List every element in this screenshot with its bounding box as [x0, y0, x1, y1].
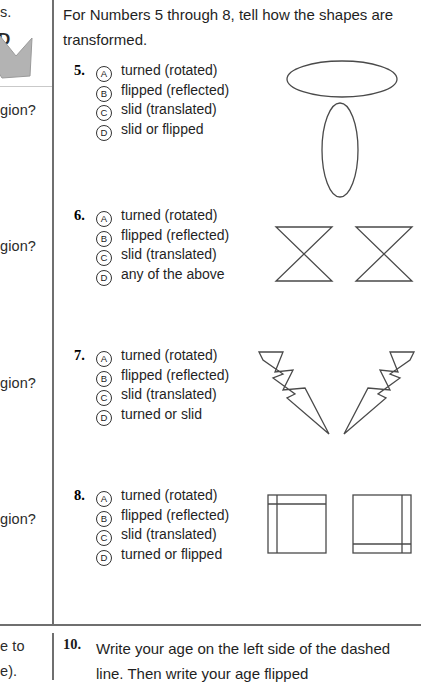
- choice-7-c[interactable]: C slid (translated): [96, 386, 276, 406]
- choice-5-b-label: flipped (reflected): [121, 82, 229, 98]
- choice-5-d[interactable]: D slid or flipped: [96, 121, 276, 141]
- choice-5-c[interactable]: C slid (translated): [96, 101, 276, 121]
- choice-8-b-label: flipped (reflected): [121, 507, 229, 523]
- question-5-choices: A turned (rotated) B flipped (reflected)…: [96, 62, 276, 140]
- column-divider: [52, 0, 54, 625]
- choice-7-d-label: turned or slid: [121, 406, 202, 422]
- choice-5-c-label: slid (translated): [121, 101, 217, 117]
- question-5-figure-ellipses: [268, 52, 420, 197]
- bubble-a[interactable]: A: [96, 491, 112, 507]
- bubble-c[interactable]: C: [96, 390, 112, 406]
- choice-5-a[interactable]: A turned (rotated): [96, 62, 276, 82]
- bubble-c[interactable]: C: [96, 250, 112, 266]
- choice-6-c[interactable]: C slid (translated): [96, 246, 276, 266]
- instructions-text: For Numbers 5 through 8, tell how the sh…: [63, 2, 415, 52]
- choice-6-b[interactable]: B flipped (reflected): [96, 227, 276, 247]
- left-partial-column: s. D gion? gion? gion? gion?: [0, 0, 52, 625]
- left-fragment-5: gion?: [0, 511, 36, 527]
- question-10-text: Write your age on the left side of the d…: [96, 636, 406, 686]
- choice-5-d-label: slid or flipped: [121, 121, 204, 137]
- question-8-choices: A turned (rotated) B flipped (reflected)…: [96, 487, 276, 565]
- choice-7-d[interactable]: D turned or slid: [96, 406, 276, 426]
- question-10-number: 10.: [63, 636, 81, 653]
- question-7-choices: A turned (rotated) B flipped (reflected)…: [96, 347, 276, 425]
- bubble-a[interactable]: A: [96, 351, 112, 367]
- choice-8-d[interactable]: D turned or flipped: [96, 546, 276, 566]
- choice-6-b-label: flipped (reflected): [121, 227, 229, 243]
- choice-6-d-label: any of the above: [121, 266, 225, 282]
- left-fragment-7: e).: [0, 663, 17, 679]
- choice-6-c-label: slid (translated): [121, 246, 217, 262]
- question-7-number: 7.: [74, 347, 85, 364]
- choice-8-c-label: slid (translated): [121, 526, 217, 542]
- main-column: For Numbers 5 through 8, tell how the sh…: [63, 0, 421, 625]
- left-fragment-4: gion?: [0, 375, 36, 391]
- bubble-a[interactable]: A: [96, 66, 112, 82]
- left-cell-divider: [0, 86, 52, 87]
- bubble-b[interactable]: B: [96, 371, 112, 387]
- left-fragment-3: gion?: [0, 238, 36, 254]
- question-6-choices: A turned (rotated) B flipped (reflected)…: [96, 207, 276, 285]
- bubble-c[interactable]: C: [96, 530, 112, 546]
- choice-7-a-label: turned (rotated): [121, 347, 218, 363]
- question-7-figure-lightning-bolts: [253, 342, 420, 442]
- bubble-d[interactable]: D: [96, 125, 112, 141]
- choice-6-a[interactable]: A turned (rotated): [96, 207, 276, 227]
- bubble-a[interactable]: A: [96, 211, 112, 227]
- choice-7-a[interactable]: A turned (rotated): [96, 347, 276, 367]
- bubble-d[interactable]: D: [96, 550, 112, 566]
- choice-8-b[interactable]: B flipped (reflected): [96, 507, 276, 527]
- bubble-c[interactable]: C: [96, 105, 112, 121]
- question-6-figure-bowties: [272, 221, 420, 291]
- question-5-number: 5.: [74, 62, 85, 79]
- choice-8-c[interactable]: C slid (translated): [96, 526, 276, 546]
- choice-6-a-label: turned (rotated): [121, 207, 218, 223]
- column-divider-bottom: [52, 633, 54, 680]
- left-fragment-2: gion?: [0, 102, 36, 118]
- bubble-b[interactable]: B: [96, 86, 112, 102]
- choice-8-d-label: turned or flipped: [121, 546, 222, 562]
- question-8-figure-squares: [263, 490, 420, 562]
- choice-8-a[interactable]: A turned (rotated): [96, 487, 276, 507]
- choice-7-b-label: flipped (reflected): [121, 367, 229, 383]
- choice-6-d[interactable]: D any of the above: [96, 266, 276, 286]
- choice-5-b[interactable]: B flipped (reflected): [96, 82, 276, 102]
- choice-8-a-label: turned (rotated): [121, 487, 218, 503]
- bubble-d[interactable]: D: [96, 410, 112, 426]
- question-8-number: 8.: [74, 487, 85, 504]
- gray-arrow-icon: [0, 32, 48, 80]
- question-6-number: 6.: [74, 207, 85, 224]
- bubble-b[interactable]: B: [96, 231, 112, 247]
- left-fragment-6: e to: [0, 638, 25, 654]
- choice-7-c-label: slid (translated): [121, 386, 217, 402]
- bubble-b[interactable]: B: [96, 511, 112, 527]
- left-fragment-0: s.: [0, 4, 11, 20]
- choice-7-b[interactable]: B flipped (reflected): [96, 367, 276, 387]
- choice-5-a-label: turned (rotated): [121, 62, 218, 78]
- bubble-d[interactable]: D: [96, 270, 112, 286]
